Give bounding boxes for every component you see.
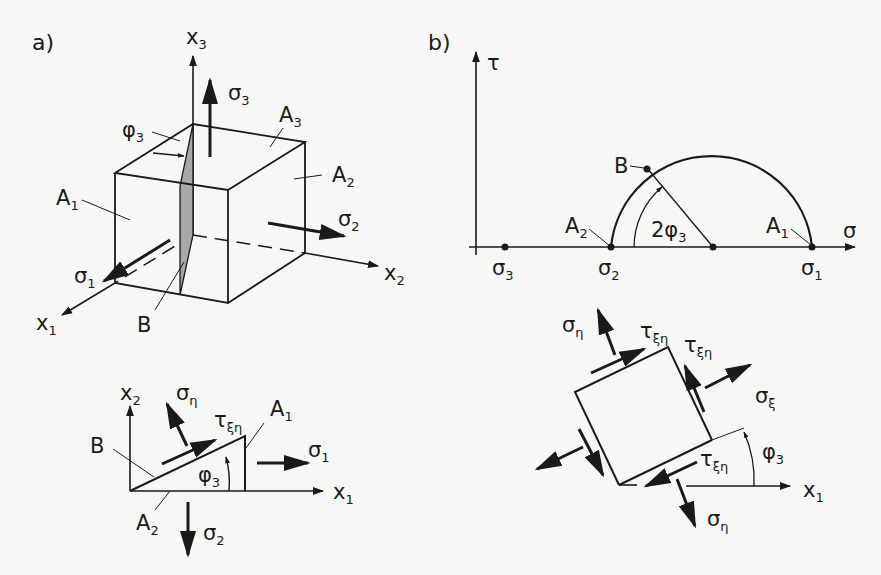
sigma-eta-bottom-label: ση [707, 507, 729, 534]
mohr-a2-label: A2 [565, 214, 588, 241]
x1-axis-label: x1 [36, 311, 57, 338]
figure-svg: a) x3 σ3 x2 x1 σ1 σ2 A1 A2 [0, 0, 881, 575]
x2-axis-label: x2 [384, 261, 405, 288]
tri-phi3-arc [226, 457, 229, 491]
point-center [710, 244, 717, 251]
tau-top-label: τξη [640, 319, 668, 346]
section-plane-b [180, 124, 193, 295]
tau-axis-label: τ [487, 51, 500, 75]
face-a3-label: A3 [279, 103, 302, 130]
tri-sigma2-label: σ2 [203, 521, 225, 548]
panel-b-label: b) [428, 30, 451, 55]
tri-x2-label: x2 [120, 381, 141, 408]
phi3-label: φ3 [122, 118, 144, 145]
panel-a: a) x3 σ3 x2 x1 σ1 σ2 A1 A2 [32, 25, 405, 338]
tau-right-label: τξη [684, 333, 712, 360]
sigma-eta-top-arrow [598, 310, 615, 355]
cube-hidden-edge-x2 [193, 235, 305, 253]
x2-axis [305, 253, 378, 266]
sigma1-tick-label: σ1 [801, 256, 823, 283]
mohr-a1-label: A1 [766, 214, 789, 241]
point-b [644, 166, 651, 173]
sigma3-tick-label: σ3 [492, 256, 514, 283]
sigma-xi-left-arrow [537, 447, 583, 469]
tri-a1-label: A1 [270, 397, 293, 424]
tri-sigma-eta-label: ση [176, 381, 198, 408]
face-a2-label: A2 [332, 163, 355, 190]
tau-left-arrow [579, 429, 603, 475]
stress-diagram-figure: a) x3 σ3 x2 x1 σ1 σ2 A1 A2 [0, 0, 881, 575]
tau-top-arrow [591, 349, 644, 373]
phi3-leader [152, 132, 180, 141]
tri-x1-label: x1 [333, 480, 354, 507]
element-x1-label: x1 [803, 478, 824, 505]
tri-sigma-eta-arrow [167, 404, 187, 446]
sigma-xi-label: σξ [755, 384, 776, 411]
point-sigma1 [809, 244, 816, 251]
a1-leader [82, 200, 130, 220]
tri-a2-label: A2 [136, 511, 159, 538]
tau-bottom-arrow [646, 462, 697, 486]
sigma2-arrow [268, 223, 344, 236]
tri-b-label: B [90, 434, 104, 458]
tri-phi3-label: φ3 [198, 463, 220, 490]
mohr-b-leader [630, 166, 644, 168]
tri-a1-leader [246, 423, 264, 448]
sigma1-arrow [104, 240, 170, 281]
a2-leader [294, 175, 322, 179]
sigma-eta-top-label: ση [562, 313, 584, 340]
sigma-xi-arrow [705, 365, 750, 388]
tau-bottom-label: τξη [700, 447, 728, 474]
sigma2-label: σ2 [338, 207, 360, 234]
tri-b-leader [113, 449, 154, 477]
sigma-axis-label: σ [843, 219, 856, 243]
element-phi3-label: φ3 [762, 440, 784, 467]
mohr-b-label: B [614, 154, 628, 178]
panel-b-element: x1 φ3 ση τξη τξη σξ τξη ση [537, 310, 824, 534]
point-sigma3 [502, 244, 509, 251]
element-ref-line [712, 428, 744, 440]
sigma2-tick-label: σ2 [598, 256, 620, 283]
mohr-angle-label: 2φ3 [651, 218, 687, 245]
panel-a-triangle: x2 x1 φ3 τξη ση σ1 σ2 A1 A2 B [90, 381, 354, 555]
panel-b-mohr: b) τ σ σ3 σ2 σ1 A2 A1 B 2φ3 [428, 30, 856, 283]
element-phi3-arc [744, 432, 754, 486]
panel-a-label: a) [32, 30, 54, 55]
sigma3-label: σ3 [228, 81, 250, 108]
sigma1-label: σ1 [74, 264, 96, 291]
face-a1-label: A1 [56, 186, 79, 213]
x3-axis-label: x3 [186, 25, 207, 52]
phi3-arrow [153, 153, 184, 156]
tri-tau-label: τξη [214, 408, 242, 435]
mohr-a1-leader [791, 229, 811, 245]
tri-a2-leader [155, 491, 170, 510]
tri-tau-arrow [162, 440, 215, 464]
tri-sigma1-label: σ1 [308, 438, 330, 465]
mohr-a2-leader [589, 229, 610, 246]
plane-b-label: B [137, 313, 151, 337]
